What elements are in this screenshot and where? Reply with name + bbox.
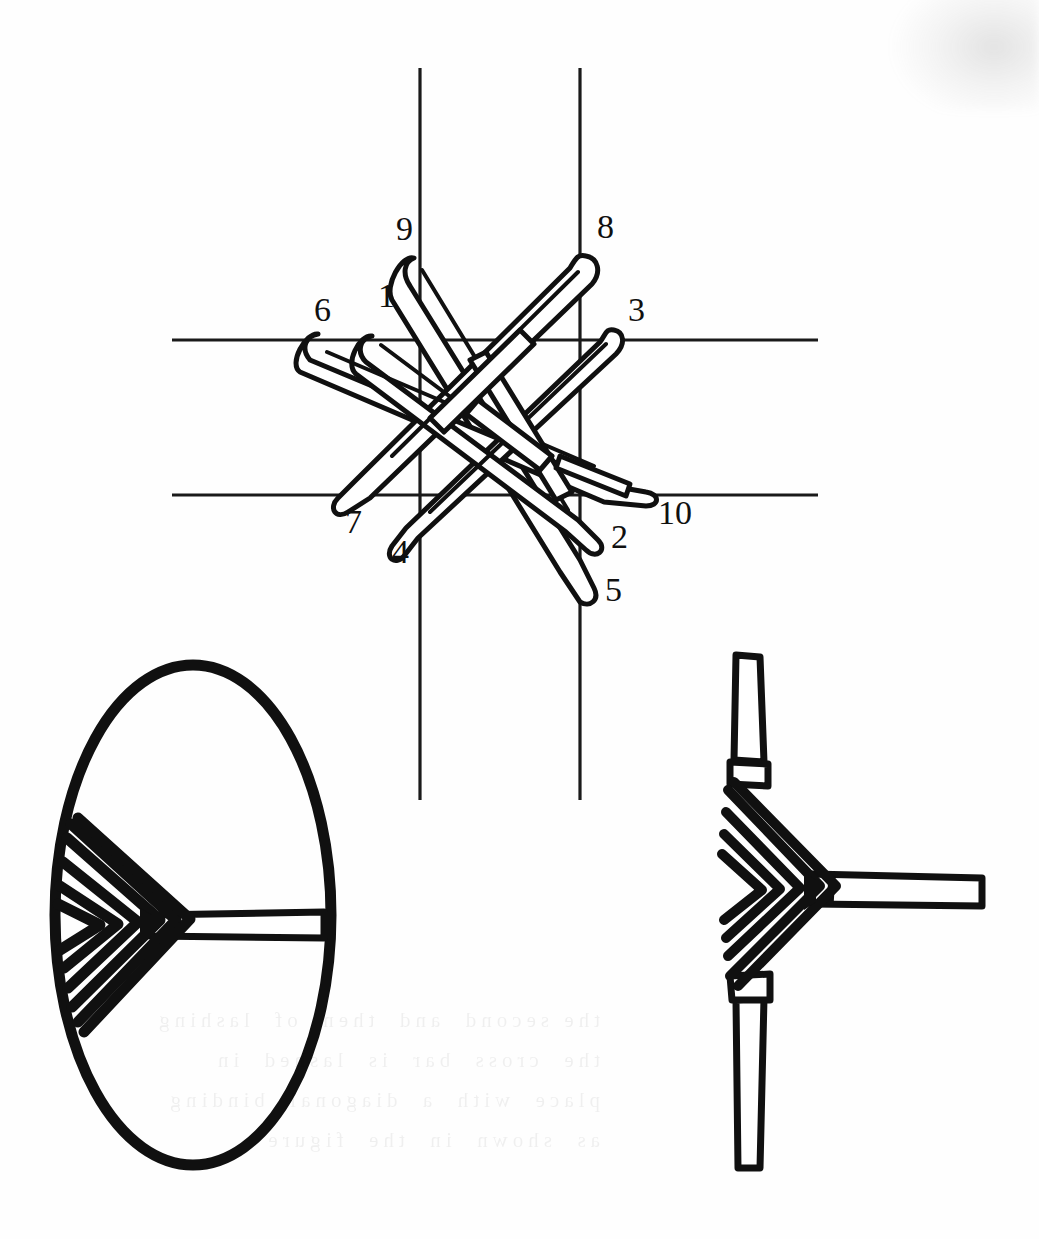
weave-label-3: 3 <box>628 291 645 328</box>
weave-label-10: 10 <box>658 494 692 531</box>
figure-canvas: .ink { fill: none; stroke: #101010; } .s… <box>0 0 1039 1239</box>
tjoint-chevron-lashing <box>722 782 836 986</box>
hoop-chevron-lashing <box>58 818 190 1032</box>
weave-label-7: 7 <box>345 503 362 540</box>
weave-label-6: 6 <box>314 291 331 328</box>
drawing-page: .ink { fill: none; stroke: #101010; } .s… <box>0 0 1039 1239</box>
weave-label-1: 1 <box>378 277 395 314</box>
weave-label-5: 5 <box>605 571 622 608</box>
hoop-with-lashed-crossbar <box>55 665 331 1165</box>
t-joint-chevron-lashing-detail <box>722 655 982 1168</box>
weave-label-8: 8 <box>597 208 614 245</box>
weave-label-9: 9 <box>396 210 413 247</box>
diagonal-lashing-weave-diagram: 12345678910 <box>172 68 818 800</box>
weave-label-2: 2 <box>611 518 628 555</box>
weave-label-4: 4 <box>392 533 409 570</box>
